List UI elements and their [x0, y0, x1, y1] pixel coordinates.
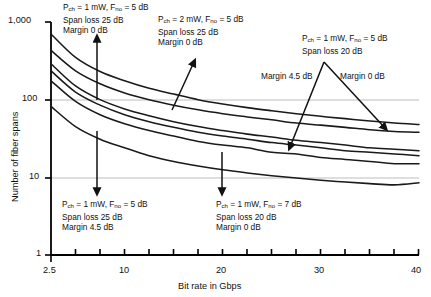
annotation-bottom-left-line1: Pch = 1 mW, Fno = 5 dB: [62, 199, 148, 212]
annotation-margin-0: Margin 0 dB: [340, 71, 385, 81]
annotation-bottom-mid-line2: Span loss 20 dB: [216, 212, 302, 222]
annotation-arrows: [97, 38, 385, 192]
annotation-top-left: Pch = 1 mW, Fno = 5 dB Span loss 25 dB M…: [63, 2, 149, 35]
annotation-top-right-line2: Span loss 20 dB: [302, 46, 388, 56]
x-tick-label-40: 40: [411, 265, 421, 275]
annotation-top-mid: Pch = 2 mW, Fno = 5 dB Span loss 25 dB M…: [158, 14, 244, 47]
x-tick-label-20: 20: [216, 265, 226, 275]
annotation-margin-45: Margin 4.5 dB: [261, 71, 313, 81]
annotation-bottom-mid-line3: Margin 0 dB: [216, 222, 302, 232]
annotation-top-mid-line3: Margin 0 dB: [158, 37, 244, 47]
y-tick-label-10: 10: [29, 171, 39, 181]
curve-4: [51, 71, 419, 156]
x-tick-label-10: 10: [119, 265, 129, 275]
annotation-top-left-line3: Margin 0 dB: [63, 25, 149, 35]
annotation-bottom-left-line3: Margin 4.5 dB: [62, 222, 148, 232]
annotation-bottom-mid: Pch = 1 mW, Fno = 7 dB Span loss 20 dB M…: [216, 199, 302, 232]
annotation-top-mid-line2: Span loss 25 dB: [158, 27, 244, 37]
annotation-top-right-line1: Pch = 1 mW, Fno = 5 dB: [302, 33, 388, 46]
x-tick-label-30: 30: [314, 265, 324, 275]
annotation-top-mid-line1: Pch = 2 mW, Fno = 5 dB: [158, 14, 244, 27]
y-axis-title: Number of fiber spans: [10, 112, 20, 202]
annotation-top-left-line2: Span loss 25 dB: [63, 15, 149, 25]
arrow-top-mid: [172, 62, 194, 110]
y-tick-label-1000: 1,000: [8, 15, 31, 25]
y-tick-label-100: 100: [22, 93, 37, 103]
annotation-top-left-line1: Pch = 1 mW, Fno = 5 dB: [63, 2, 149, 15]
annotation-bottom-left-line2: Span loss 25 dB: [62, 212, 148, 222]
y-tick-label-1: 1: [36, 248, 41, 258]
annotation-bottom-left: Pch = 1 mW, Fno = 5 dB Span loss 25 dB M…: [62, 199, 148, 232]
annotation-top-right: Pch = 1 mW, Fno = 5 dB Span loss 20 dB: [302, 33, 388, 56]
gridlines: [51, 100, 419, 178]
curve-6: [51, 106, 419, 185]
x-axis-title: Bit rate in Gbps: [178, 281, 241, 291]
chart-figure: Pch = 1 mW, Fno = 5 dB Span loss 25 dB M…: [0, 0, 431, 297]
annotation-bottom-mid-line1: Pch = 1 mW, Fno = 7 dB: [216, 199, 302, 212]
data-curves: [51, 34, 419, 185]
x-tick-label-2.5: 2.5: [43, 265, 56, 275]
